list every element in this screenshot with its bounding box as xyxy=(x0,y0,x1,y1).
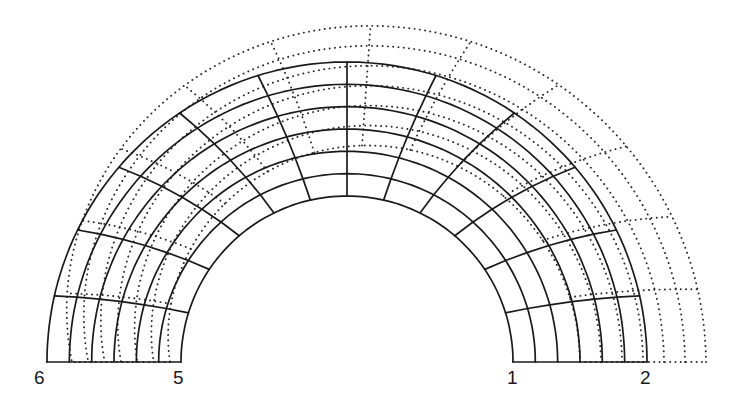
deformed-mesh-arc xyxy=(151,126,601,363)
node-label-5: 5 xyxy=(173,368,184,387)
undeformed-mesh-arc xyxy=(181,196,513,362)
deformed-mesh-arc xyxy=(135,106,622,362)
mesh-diagram xyxy=(0,0,743,406)
deformed-mesh-arc xyxy=(168,146,580,363)
deformed-mesh-radial-line xyxy=(458,85,559,167)
node-label-1: 1 xyxy=(507,368,518,387)
node-label-6: 6 xyxy=(34,368,45,387)
undeformed-mesh-arc xyxy=(159,174,536,362)
deformed-mesh-arc xyxy=(84,46,685,362)
deformed-mesh-radial-line xyxy=(543,217,673,241)
node-label-2: 2 xyxy=(640,368,651,387)
undeformed-mesh-solid xyxy=(47,62,647,362)
